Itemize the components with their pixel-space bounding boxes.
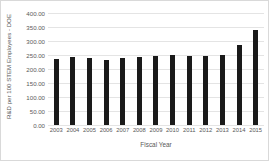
x-axis-tick-labels: 2003200420052006200720082009201020112012… [48, 127, 264, 139]
bar [203, 56, 208, 125]
bar-slot [81, 13, 98, 125]
bars-layer [48, 13, 264, 125]
bar [153, 56, 158, 125]
x-axis-tick-label: 2003 [48, 127, 65, 133]
y-axis-tick-label: 400.00 [26, 10, 45, 17]
bar-slot [131, 13, 148, 125]
bar-chart-figure: R&D per 100 STEM Employees - DOE 0.0050.… [0, 0, 269, 161]
bar [54, 59, 59, 125]
bar [237, 45, 242, 125]
y-axis-tick-label: 0.00 [33, 122, 45, 129]
bar-slot [181, 13, 198, 125]
bar-slot [65, 13, 82, 125]
x-axis-tick-label: 2006 [98, 127, 115, 133]
bar-slot [231, 13, 248, 125]
bar-slot [164, 13, 181, 125]
bar-slot [214, 13, 231, 125]
bar-slot [148, 13, 165, 125]
y-axis-tick-label: 50.00 [30, 108, 45, 115]
x-axis-tick-label: 2015 [247, 127, 264, 133]
y-axis-tick-label: 250.00 [26, 52, 45, 59]
x-axis-tick-label: 2013 [214, 127, 231, 133]
x-axis-tick-label: 2009 [148, 127, 165, 133]
bar [70, 57, 75, 125]
bar [187, 56, 192, 125]
x-axis-tick-label: 2005 [81, 127, 98, 133]
y-axis-tick-label: 150.00 [26, 80, 45, 87]
plot-area [48, 13, 264, 125]
x-axis-tick-label: 2008 [131, 127, 148, 133]
x-axis-title: Fiscal Year [48, 141, 264, 148]
y-axis-title-label: R&D per 100 STEM Employees - DOE [5, 14, 12, 119]
y-axis-title: R&D per 100 STEM Employees - DOE [1, 1, 15, 131]
y-axis-tick-label: 200.00 [26, 66, 45, 73]
gridline [48, 125, 264, 126]
x-axis-tick-label: 2011 [181, 127, 198, 133]
y-axis-tick-label: 100.00 [26, 94, 45, 101]
x-axis-tick-label: 2010 [164, 127, 181, 133]
bar [120, 58, 125, 125]
y-axis-tick-label: 350.00 [26, 24, 45, 31]
bar [253, 30, 258, 125]
x-axis-tick-label: 2014 [231, 127, 248, 133]
y-axis-tick-labels: 0.0050.00100.00150.00200.00250.00300.003… [15, 13, 47, 125]
bar [137, 57, 142, 125]
y-axis-tick-label: 300.00 [26, 38, 45, 45]
bar-slot [197, 13, 214, 125]
x-axis-tick-label: 2004 [65, 127, 82, 133]
bar-slot [247, 13, 264, 125]
bar-slot [114, 13, 131, 125]
bar [104, 60, 109, 125]
bar [87, 58, 92, 125]
x-axis-tick-label: 2012 [197, 127, 214, 133]
bar [170, 55, 175, 125]
x-axis-tick-label: 2007 [114, 127, 131, 133]
bar [220, 55, 225, 125]
bar-slot [98, 13, 115, 125]
bar-slot [48, 13, 65, 125]
